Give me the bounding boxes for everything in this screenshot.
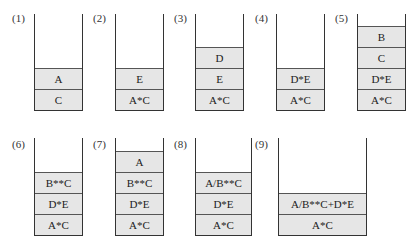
stack-5-label: (5) (335, 12, 348, 24)
stack-cell: A*C (277, 89, 324, 110)
stack-cell: D*E (196, 193, 251, 214)
stack-cell: D*E (358, 68, 405, 89)
stack-9: A/B**C+D*E A*C (278, 138, 367, 236)
stack-8: A/B**C D*E A*C (195, 138, 252, 236)
stack-cell: A*C (279, 214, 366, 235)
stack-4: D*E A*C (276, 14, 325, 111)
stack-cell: C (35, 89, 82, 110)
stack-cell: A*C (116, 214, 163, 235)
stack-9-label: (9) (255, 138, 268, 150)
stack-cell: A*C (116, 89, 163, 110)
stack-6-label: (6) (12, 138, 25, 150)
stack-cell: D (196, 47, 243, 68)
stack-7: A B**C D*E A*C (115, 138, 164, 236)
stack-3-label: (3) (174, 12, 187, 24)
stack-cell: B**C (35, 172, 82, 193)
stack-cell: A/B**C (196, 172, 251, 193)
stack-6: B**C D*E A*C (34, 138, 83, 236)
stack-cell: A (116, 151, 163, 172)
stack-cell: A*C (196, 214, 251, 235)
stack-cell: A/B**C+D*E (279, 193, 366, 214)
stack-cell: E (116, 68, 163, 89)
stack-cell: D*E (116, 193, 163, 214)
stack-8-label: (8) (174, 138, 187, 150)
stack-cell: B (358, 26, 405, 47)
stack-cell: A*C (196, 89, 243, 110)
stack-cell: C (358, 47, 405, 68)
stack-cell: E (196, 68, 243, 89)
stack-4-label: (4) (255, 12, 268, 24)
stack-2-label: (2) (93, 12, 106, 24)
stack-1-label: (1) (12, 12, 25, 24)
stack-cell: A (35, 68, 82, 89)
stack-2: E A*C (115, 14, 164, 111)
stack-5: B C D*E A*C (357, 14, 406, 111)
stack-cell: D*E (35, 193, 82, 214)
stack-1: A C (34, 14, 83, 111)
stack-cell: D*E (277, 68, 324, 89)
stack-cell: A*C (358, 89, 405, 110)
stack-7-label: (7) (93, 138, 106, 150)
stack-cell: A*C (35, 214, 82, 235)
stack-3: D E A*C (195, 14, 244, 111)
stack-cell: B**C (116, 172, 163, 193)
